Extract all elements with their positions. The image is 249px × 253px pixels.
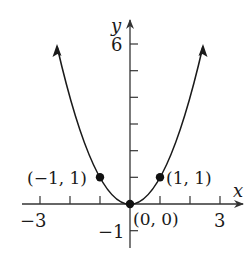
curve-arrow-right-icon xyxy=(199,44,208,57)
point-label-pos: (1, 1) xyxy=(166,168,212,188)
parabola-chart: y x 6 −1 −3 3 (−1, 1) (0, 0) (1, 1) xyxy=(0,0,249,253)
point-label-neg: (−1, 1) xyxy=(27,168,87,188)
point-one-one xyxy=(156,173,164,181)
point-label-origin: (0, 0) xyxy=(133,209,179,229)
y-tick-label-neg1: −1 xyxy=(98,221,125,242)
y-axis-label: y xyxy=(110,15,122,36)
curve-arrow-left-icon xyxy=(53,44,62,57)
y-tick-label-6: 6 xyxy=(111,34,122,55)
x-tick-label-3: 3 xyxy=(214,210,225,231)
x-tick-label-neg3: −3 xyxy=(20,210,47,231)
x-axis-label: x xyxy=(233,180,243,201)
point-neg-one-one xyxy=(96,173,104,181)
point-origin xyxy=(126,200,134,208)
